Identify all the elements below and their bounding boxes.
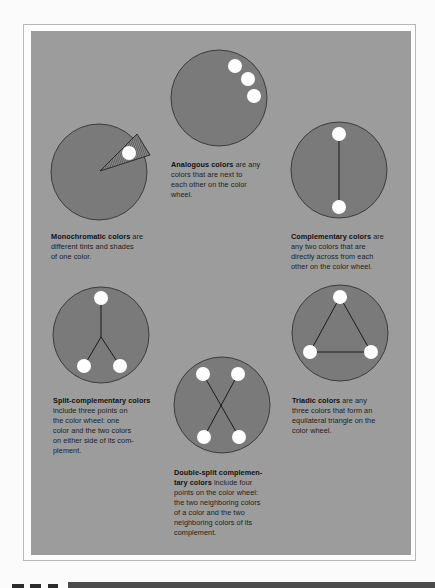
split-complementary-wheel — [53, 287, 149, 383]
page-rule-bar — [68, 582, 435, 588]
caption-double-split-complementary: Double-split complemen- tary colors incl… — [174, 468, 289, 538]
caption-split-complementary: Split-complementary colors include three… — [53, 396, 168, 456]
term-double-split-line1: Double-split complemen- — [174, 468, 262, 477]
analogous-wheel — [171, 50, 267, 146]
cropped-heading-glyphs — [0, 582, 60, 588]
term-analogous: Analogous colors — [171, 160, 233, 169]
caption-analogous: Analogous colors are any colors that are… — [171, 160, 281, 200]
term-double-split-line2: tary colors — [174, 478, 212, 487]
double-split-complementary-wheel — [174, 357, 270, 453]
term-triadic: Triadic colors — [292, 396, 340, 405]
monochromatic-wheel — [51, 124, 150, 220]
term-monochromatic: Monochromatic colors — [51, 232, 130, 241]
caption-monochromatic: Monochromatic colors are different tints… — [51, 232, 166, 262]
caption-triadic: Triadic colors are any three colors that… — [292, 396, 407, 436]
triadic-wheel — [292, 285, 388, 381]
complementary-wheel — [291, 122, 387, 218]
term-complementary: Complementary colors — [291, 232, 371, 241]
caption-complementary: Complementary colors are any two colors … — [291, 232, 406, 272]
term-split-complementary: Split-complementary colors — [53, 396, 150, 405]
